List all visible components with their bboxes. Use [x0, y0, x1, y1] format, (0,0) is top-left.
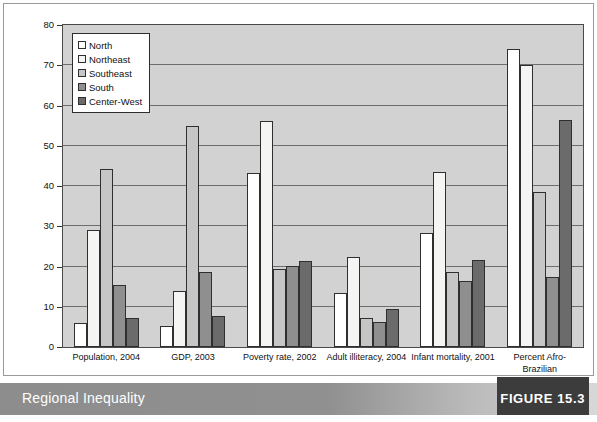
legend-label: North [89, 40, 112, 51]
legend-item-center-west: Center-West [78, 94, 142, 108]
y-tick-60: 60 [24, 106, 62, 107]
y-tick-label: 40 [43, 179, 54, 192]
y-tick-mark [57, 186, 62, 187]
legend-label: Center-West [89, 96, 142, 107]
figure-container: 01020304050607080 Population, 2004GDP, 2… [0, 0, 597, 422]
legend-item-south: South [78, 80, 142, 94]
bar [347, 257, 360, 347]
chart-panel: 01020304050607080 Population, 2004GDP, 2… [3, 3, 594, 376]
legend-label: Southeast [89, 68, 132, 79]
bar [386, 309, 399, 347]
y-tick-label: 10 [43, 300, 54, 313]
bar-group [150, 25, 237, 347]
y-tick-mark [57, 25, 62, 26]
bar [247, 173, 260, 347]
bar [360, 318, 373, 347]
figure-number-label: FIGURE 15.3 [500, 391, 585, 406]
y-tick-40: 40 [24, 186, 62, 187]
legend-item-northeast: Northeast [78, 52, 142, 66]
y-tick-label: 50 [43, 139, 54, 152]
bar [100, 169, 113, 347]
bar [546, 277, 559, 347]
bar [520, 65, 533, 347]
bar [472, 260, 485, 347]
bar [273, 269, 286, 347]
legend-label: South [89, 82, 114, 93]
legend-swatch-icon [78, 97, 86, 105]
bar [74, 323, 87, 347]
x-axis-labels: Population, 2004GDP, 2003Poverty rate, 2… [63, 352, 583, 378]
y-tick-mark [57, 146, 62, 147]
y-tick-20: 20 [24, 267, 62, 268]
bar [173, 291, 186, 347]
bar [87, 230, 100, 347]
bar [160, 326, 173, 347]
y-axis: 01020304050607080 [24, 24, 62, 348]
legend-item-southeast: Southeast [78, 66, 142, 80]
y-tick-mark [57, 307, 62, 308]
y-tick-mark [57, 65, 62, 66]
legend-label: Northeast [89, 54, 130, 65]
x-axis-label: GDP, 2003 [150, 352, 237, 364]
y-tick-mark [57, 226, 62, 227]
y-tick-label: 0 [49, 340, 54, 353]
bar [559, 120, 572, 347]
bar [433, 172, 446, 347]
bar [260, 121, 273, 347]
bar-group [236, 25, 323, 347]
x-axis-label: Infant mortality, 2001 [410, 352, 497, 364]
bar-group [496, 25, 583, 347]
x-axis-label: Adult illiteracy, 2004 [323, 352, 410, 364]
bar [113, 285, 126, 347]
bar [212, 316, 225, 347]
y-tick-label: 20 [43, 260, 54, 273]
chart-legend: NorthNortheastSoutheastSouthCenter-West [72, 33, 150, 113]
caption-title: Regional Inequality [22, 390, 145, 406]
bar [420, 233, 433, 347]
legend-swatch-icon [78, 55, 86, 63]
legend-swatch-icon [78, 41, 86, 49]
bar [199, 272, 212, 347]
y-tick-70: 70 [24, 65, 62, 66]
bar-group [410, 25, 497, 347]
y-tick-50: 50 [24, 146, 62, 147]
bar [533, 192, 546, 347]
bar [373, 322, 386, 347]
bar [334, 293, 347, 347]
y-tick-mark [57, 106, 62, 107]
bar [286, 266, 299, 347]
x-axis-label: Poverty rate, 2002 [236, 352, 323, 364]
y-tick-0: 0 [24, 347, 62, 348]
legend-swatch-icon [78, 69, 86, 77]
x-axis-label: Percent Afro-Brazilian [496, 352, 583, 375]
bar [299, 261, 312, 347]
caption-bar: Regional Inequality FIGURE 15.3 [0, 383, 597, 415]
y-tick-80: 80 [24, 25, 62, 26]
legend-item-north: North [78, 38, 142, 52]
y-tick-label: 60 [43, 99, 54, 112]
bar [507, 49, 520, 347]
bar [446, 272, 459, 347]
legend-swatch-icon [78, 83, 86, 91]
y-tick-10: 10 [24, 307, 62, 308]
y-tick-mark [57, 267, 62, 268]
bar [186, 126, 199, 347]
bar [459, 281, 472, 347]
bar [126, 318, 139, 347]
x-axis-label: Population, 2004 [63, 352, 150, 364]
y-tick-label: 80 [43, 18, 54, 31]
y-tick-30: 30 [24, 226, 62, 227]
bar-group [323, 25, 410, 347]
y-tick-label: 70 [43, 58, 54, 71]
y-tick-mark [57, 347, 62, 348]
y-tick-label: 30 [43, 219, 54, 232]
